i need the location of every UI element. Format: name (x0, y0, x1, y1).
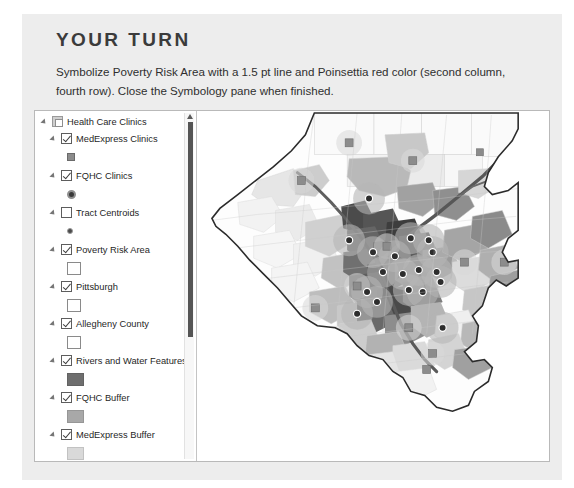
layer-label: Health Care Clinics (67, 117, 147, 127)
layer-symbol-pittsburgh[interactable] (35, 295, 185, 315)
layer-visibility-checkbox[interactable] (61, 318, 72, 329)
layer-visibility-checkbox[interactable] (61, 392, 72, 403)
page-title: YOUR TURN (56, 29, 191, 51)
symbol-square-icon (67, 153, 75, 161)
layer-symbol-fqhc-buffer[interactable] (35, 406, 185, 426)
symbol-hollow-polygon-icon (67, 299, 81, 312)
layer-row-fqhc-buffer[interactable]: FQHC Buffer (35, 389, 185, 406)
symbol-fill-polygon-icon (67, 373, 84, 386)
layer-row-health-care-clinics[interactable]: Health Care Clinics (35, 113, 185, 130)
layer-symbol-allegheny-county[interactable] (35, 332, 185, 352)
layer-label: Tract Centroids (76, 208, 139, 218)
layer-symbol-tract-centroids[interactable] (35, 221, 185, 241)
layer-tree[interactable]: Health Care Clinics MedExpress Clinics F… (35, 113, 185, 461)
layer-label: Rivers and Water Features (76, 356, 187, 366)
content-card: YOUR TURN Symbolize Poverty Risk Area wi… (22, 14, 562, 480)
expander-icon[interactable] (50, 208, 59, 217)
expander-icon[interactable] (50, 282, 59, 291)
symbol-dot-icon (67, 228, 73, 234)
layer-row-pittsburgh[interactable]: Pittsburgh (35, 278, 185, 295)
layer-visibility-checkbox[interactable] (52, 116, 63, 127)
layer-visibility-checkbox[interactable] (61, 281, 72, 292)
layer-symbol-fqhc-clinics[interactable] (35, 184, 185, 204)
arcgis-pro-window: Health Care Clinics MedExpress Clinics F… (34, 110, 550, 462)
layer-symbol-rivers-and-water-features[interactable] (35, 369, 185, 389)
layer-label: MedExpress Clinics (76, 134, 158, 144)
expander-icon[interactable] (50, 134, 59, 143)
instruction-text: Symbolize Poverty Risk Area with a 1.5 p… (56, 62, 534, 100)
layer-row-allegheny-county[interactable]: Allegheny County (35, 315, 185, 332)
expander-icon[interactable] (50, 319, 59, 328)
layer-visibility-checkbox[interactable] (61, 207, 72, 218)
layer-symbol-medexpress-buffer[interactable] (35, 443, 185, 461)
symbol-fill-polygon-icon (67, 447, 84, 460)
layer-visibility-checkbox[interactable] (61, 170, 72, 181)
layer-row-medexpress-clinics[interactable]: MedExpress Clinics (35, 130, 185, 147)
allegheny-county-map-graphic (197, 111, 549, 461)
layer-row-rivers-and-water-features[interactable]: Rivers and Water Features (35, 352, 185, 369)
layer-symbol-medexpress-clinics[interactable] (35, 147, 185, 167)
layer-label: Poverty Risk Area (76, 245, 150, 255)
layer-symbol-poverty-risk-area[interactable] (35, 258, 185, 278)
symbol-circle-icon (67, 190, 76, 199)
layer-visibility-checkbox[interactable] (61, 429, 72, 440)
expander-icon[interactable] (50, 245, 59, 254)
map-layers (198, 111, 548, 461)
scroll-up-arrow-icon[interactable] (187, 114, 193, 119)
contents-scrollbar[interactable] (184, 113, 194, 459)
layer-row-tract-centroids[interactable]: Tract Centroids (35, 204, 185, 221)
symbol-hollow-polygon-icon (67, 262, 81, 275)
contents-pane[interactable]: Health Care Clinics MedExpress Clinics F… (35, 111, 197, 461)
expander-icon[interactable] (50, 393, 59, 402)
layer-visibility-checkbox[interactable] (61, 244, 72, 255)
expander-icon[interactable] (50, 171, 59, 180)
symbol-hollow-polygon-icon (67, 336, 81, 349)
layer-row-poverty-risk-area[interactable]: Poverty Risk Area (35, 241, 185, 258)
expander-icon[interactable] (50, 356, 59, 365)
symbol-fill-polygon-icon (67, 410, 84, 423)
layer-label: FQHC Buffer (76, 393, 130, 403)
layer-row-medexpress-buffer[interactable]: MedExpress Buffer (35, 426, 185, 443)
layer-label: Allegheny County (76, 319, 149, 329)
map-view[interactable] (197, 111, 549, 461)
scrollbar-thumb[interactable] (188, 122, 193, 337)
layer-visibility-checkbox[interactable] (61, 355, 72, 366)
layer-label: Pittsburgh (76, 282, 118, 292)
expander-icon[interactable] (41, 117, 50, 126)
layer-row-fqhc-clinics[interactable]: FQHC Clinics (35, 167, 185, 184)
layer-label: FQHC Clinics (76, 171, 132, 181)
expander-icon[interactable] (50, 430, 59, 439)
layer-visibility-checkbox[interactable] (61, 133, 72, 144)
layer-label: MedExpress Buffer (76, 430, 155, 440)
